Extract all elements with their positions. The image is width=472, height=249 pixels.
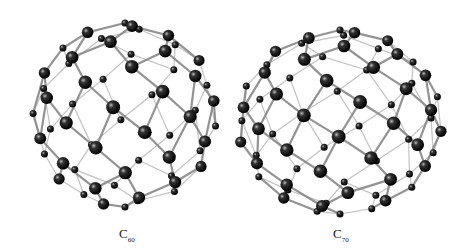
carbon-atom [435,126,446,137]
carbon-atom [400,82,413,95]
carbon-atom [280,143,293,156]
carbon-atom [332,130,346,144]
carbon-atom [411,138,424,151]
carbon-atom [368,205,375,212]
carbon-atom [189,70,201,82]
carbon-atom [235,136,246,147]
carbon-atom [138,125,152,139]
carbon-atom [238,101,250,113]
carbon-atom [128,51,135,58]
carbon-atom [122,204,129,211]
c60-molecule [0,0,472,249]
carbon-atom [278,192,289,203]
carbon-atom [208,95,220,107]
carbon-atom [434,93,441,100]
carbon-atom [57,157,70,170]
carbon-atom [133,192,145,204]
carbon-atom [337,211,344,218]
carbon-atom [82,27,94,39]
carbon-atom [341,179,348,186]
carbon-atom [54,173,65,184]
c60-structure [30,20,220,211]
carbon-atom [89,182,102,195]
carbon-atom [41,150,48,157]
carbon-atom [195,161,206,172]
carbon-atom [125,60,139,74]
carbon-atom [104,35,117,48]
carbon-atom [243,83,250,90]
carbon-atom [163,30,175,42]
carbon-atom [256,96,263,103]
carbon-atom [338,40,351,53]
carbon-atom [410,59,417,66]
carbon-atom [353,95,367,109]
carbon-atom [98,35,105,42]
carbon-atom [172,41,179,48]
carbon-atom [71,166,78,173]
carbon-atom [259,67,271,79]
carbon-atom [337,27,344,34]
carbon-atom [349,27,361,39]
carbon-atom [98,198,109,209]
carbon-atom [382,35,393,46]
carbon-atom [170,66,177,73]
carbon-atom [163,150,176,163]
carbon-atom [148,91,155,98]
carbon-atom [314,165,327,178]
carbon-atom [286,75,293,82]
carbon-atom [66,51,79,64]
carbon-atom [419,160,431,172]
carbon-atom [356,123,363,130]
carbon-atom [387,117,401,131]
carbon-atom [364,151,378,165]
carbon-atom [303,32,315,44]
carbon-atom [194,55,205,66]
carbon-atom [212,122,219,129]
carbon-atom [405,136,412,143]
carbon-atom [269,131,276,138]
carbon-atom [171,188,178,195]
carbon-atom [197,147,204,154]
carbon-atom [321,144,328,151]
carbon-atom [391,48,403,60]
carbon-atom [380,195,392,207]
carbon-atom [297,108,311,122]
carbon-atom [388,101,395,108]
carbon-atom [270,46,281,57]
carbon-atom [100,76,107,83]
carbon-atom [320,74,334,88]
carbon-atom [106,100,120,114]
carbon-atom [169,176,181,188]
carbon-atom [40,85,47,92]
carbon-atom [319,53,326,60]
carbon-atom [251,157,263,169]
carbon-atom [425,104,437,116]
carbon-atom [203,82,210,89]
carbon-atom [60,116,73,129]
carbon-atom [252,122,265,135]
carbon-atom [298,53,311,66]
carbon-atom [69,101,76,108]
carbon-atom [372,192,379,199]
carbon-atom [384,173,397,186]
carbon-atom [408,184,415,191]
carbon-atom [199,135,211,147]
carbon-atom [126,20,138,32]
carbon-atom [238,117,245,124]
carbon-atom [119,166,132,179]
carbon-atom [135,157,142,164]
c70-structure [235,27,447,218]
carbon-atom [166,132,173,139]
carbon-atom [293,165,300,172]
carbon-atom [367,61,380,74]
carbon-atom [30,110,37,117]
c60-label: C60 [119,226,135,244]
carbon-atom [59,44,66,51]
carbon-atom [39,67,50,78]
carbon-atom [159,45,172,58]
carbon-atom [156,85,170,99]
carbon-atom [420,70,432,82]
c70-label: C70 [333,226,349,244]
carbon-atom [280,178,293,191]
carbon-atom [316,200,328,212]
